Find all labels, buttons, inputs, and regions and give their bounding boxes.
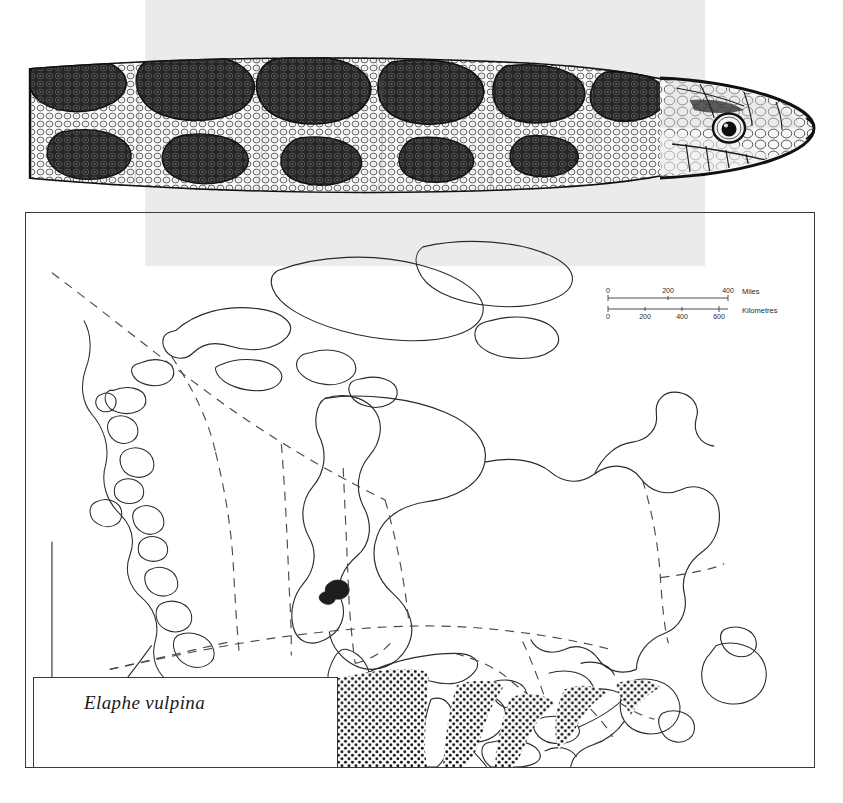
scale-km-unit: Kilometres	[742, 306, 778, 315]
scale-miles-tick-0: 0	[606, 287, 610, 294]
newfoundland	[702, 643, 766, 704]
plate-page: 0 200 400 Miles 0 200 400 600 Kilometres…	[0, 0, 843, 803]
map-scale-bar: 0 200 400 Miles 0 200 400 600 Kilometres	[600, 281, 800, 317]
species-name: Elaphe vulpina	[84, 692, 205, 714]
snake-head	[640, 70, 840, 190]
snake-eye	[713, 114, 745, 143]
labrador-coast	[485, 392, 720, 672]
scale-miles-tick-400: 400	[722, 287, 734, 294]
species-label-box: Elaphe vulpina	[33, 677, 338, 768]
scale-miles-tick-200: 200	[662, 287, 674, 294]
hudson-bay	[292, 396, 381, 643]
scale-miles-unit: Miles	[742, 287, 760, 296]
snake-illustration	[0, 40, 843, 210]
scale-km-tick-400: 400	[676, 313, 688, 320]
scale-km-tick-200: 200	[639, 313, 651, 320]
arctic-islands	[105, 241, 572, 413]
scale-km-tick-0: 0	[606, 313, 610, 320]
scale-km-tick-600: 600	[713, 313, 725, 320]
